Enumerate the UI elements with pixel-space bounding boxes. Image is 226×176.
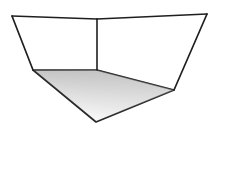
figure-root (0, 0, 226, 176)
perspective-room-drawing (0, 0, 226, 176)
